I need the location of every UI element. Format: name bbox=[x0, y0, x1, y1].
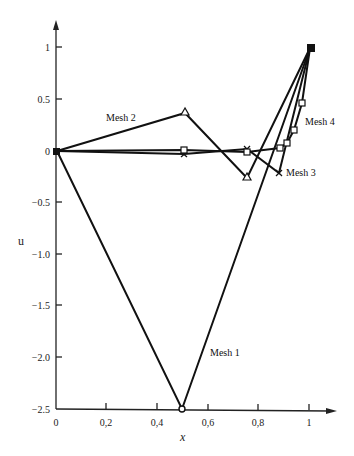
y-tick-label: 1 bbox=[45, 42, 50, 53]
x-tick-label: 0 bbox=[54, 417, 59, 428]
x-tick-label: 0,8 bbox=[252, 417, 265, 428]
x-tick-label: 0,4 bbox=[151, 417, 164, 428]
chart: 1 0.5 0 −0.5 −1.0 −1.5 −2.0 −2.5 0 0,2 0… bbox=[0, 0, 354, 456]
x-axis bbox=[56, 403, 337, 414]
mesh-3-label: Mesh 3 bbox=[286, 167, 316, 178]
series-mesh-1 bbox=[57, 48, 310, 412]
triangle-marker bbox=[181, 108, 189, 115]
y-tick-label: 0 bbox=[45, 146, 50, 157]
y-axis bbox=[53, 20, 62, 409]
y-tick-label: −2.5 bbox=[32, 404, 50, 415]
y-tick-label: −0.5 bbox=[32, 197, 50, 208]
circle-marker bbox=[179, 406, 185, 412]
y-tick-label: −2.0 bbox=[32, 352, 50, 363]
mesh-4-label: Mesh 4 bbox=[305, 116, 335, 127]
mesh-2-label: Mesh 2 bbox=[106, 112, 136, 123]
left-endpoint-marker bbox=[53, 148, 60, 155]
x-tick-label: 1 bbox=[307, 417, 312, 428]
x-tick-label: 0,6 bbox=[202, 417, 215, 428]
right-endpoint-marker bbox=[307, 44, 315, 52]
y-tick-label: −1.5 bbox=[32, 300, 50, 311]
y-tick-label: 0.5 bbox=[38, 94, 51, 105]
mesh-1-label: Mesh 1 bbox=[210, 347, 240, 358]
y-tick-label: −1.0 bbox=[32, 249, 50, 260]
series-mesh-2 bbox=[57, 48, 310, 180]
x-axis-title: x bbox=[179, 430, 186, 444]
x-tick-label: 0,2 bbox=[100, 417, 113, 428]
y-axis-title: u bbox=[18, 234, 24, 248]
